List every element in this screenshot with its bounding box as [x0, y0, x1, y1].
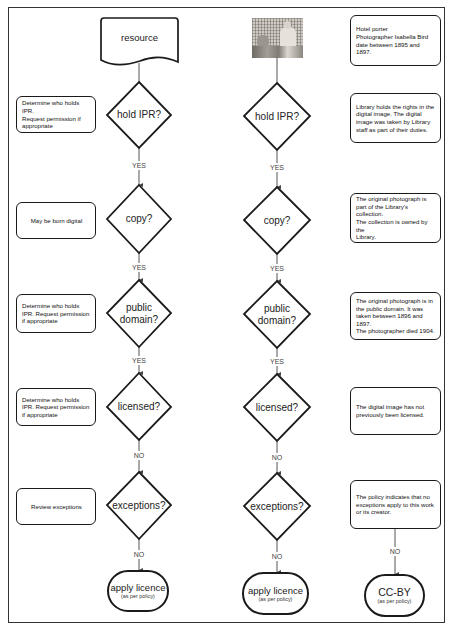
connector-label-no: NO — [384, 547, 406, 556]
decision-label: copy? — [255, 215, 299, 227]
note-not-licensed: The digital image has not previously bee… — [350, 387, 441, 435]
connector-label-yes: YES — [266, 264, 288, 273]
note-text: The original photograph is in the public… — [356, 297, 436, 335]
decision-copy: copy? — [107, 185, 171, 253]
note-text: Determine who holds IPR. Request permiss… — [22, 302, 89, 325]
note-text: Hotel porter Photographer Isabella Bird … — [356, 25, 428, 55]
end-subtitle: (as per policy) — [378, 598, 412, 605]
note-text: The policy indicates that no exceptions … — [356, 493, 434, 516]
end-subtitle: (as per policy) — [259, 596, 293, 603]
note-text: Determine who holds IPR. Request permiss… — [22, 99, 91, 129]
note-original-collection: The original photograph is part of the L… — [350, 193, 441, 243]
end-subtitle: (as per policy) — [121, 593, 155, 600]
decision-label: licensed? — [111, 401, 167, 413]
decision-hold-ipr: hold IPR? — [107, 82, 171, 148]
decision-public-domain-example: public domain? — [244, 281, 310, 348]
note-photo-details: Hotel porter Photographer Isabella Bird … — [350, 15, 441, 66]
connector-label-yes: YES — [266, 163, 288, 172]
note-library-rights: Library holds the rights in the digital … — [350, 93, 441, 143]
connector-label-yes: YES — [128, 263, 150, 272]
note-text: Library holds the rights in the digital … — [356, 103, 434, 133]
decision-hold-ipr-example: hold IPR? — [244, 83, 310, 150]
note-text: Determine who holds IPR. Request permiss… — [22, 396, 89, 419]
note-licensed: Determine who holds IPR. Request permiss… — [16, 388, 96, 426]
note-exceptions: Review exceptions — [16, 488, 96, 525]
decision-public-domain: public domain? — [107, 280, 171, 347]
decision-label: hold IPR? — [117, 109, 161, 121]
note-public-domain: Determine who holds IPR. Request permiss… — [16, 294, 96, 333]
photo-figure-head — [284, 21, 291, 29]
decision-label: exceptions? — [108, 500, 170, 512]
note-copy: May be born digital — [16, 202, 96, 239]
note-policy-exceptions: The policy indicates that no exceptions … — [350, 480, 441, 529]
connector-label-yes: YES — [266, 357, 288, 366]
note-hold-ipr: Determine who holds IPR. Request permiss… — [16, 96, 96, 133]
decision-exceptions-example: exceptions? — [244, 473, 310, 540]
decision-label: exceptions? — [246, 501, 308, 513]
photo-foreground-objects — [252, 46, 303, 58]
note-text: May be born digital — [31, 217, 83, 225]
decision-label: public domain? — [255, 303, 299, 327]
decision-licensed-example: licensed? — [244, 374, 310, 441]
decision-label: copy? — [117, 213, 161, 225]
decision-exceptions: exceptions? — [107, 472, 171, 539]
decision-label: licensed? — [249, 402, 305, 414]
photograph-thumbnail — [252, 18, 303, 58]
note-text: The original photograph is part of the L… — [356, 195, 436, 241]
end-title: CC-BY — [378, 586, 411, 598]
connector-label-yes: YES — [128, 356, 150, 365]
decision-label: hold IPR? — [255, 111, 299, 123]
decision-copy-example: copy? — [244, 187, 310, 254]
connector-label-no: NO — [266, 552, 288, 561]
note-public-domain-status: The original photograph is in the public… — [350, 292, 441, 340]
end-cc-by: CC-BY (as per policy) — [364, 574, 425, 617]
note-text: The digital image has not previously bee… — [356, 403, 424, 418]
end-apply-licence: apply licence (as per policy) — [107, 570, 169, 612]
start-resource-label: resource — [101, 18, 178, 56]
end-apply-licence-example: apply licence (as per policy) — [242, 572, 309, 615]
end-title: apply licence — [248, 585, 303, 596]
end-title: apply licence — [111, 582, 166, 593]
connector-label-yes: YES — [128, 161, 150, 170]
decision-licensed: licensed? — [107, 373, 171, 440]
connector-label-no: NO — [128, 451, 150, 460]
connector-label-no: NO — [266, 453, 288, 462]
note-text: Review exceptions — [31, 503, 82, 511]
connector-label-no: NO — [128, 550, 150, 559]
decision-label: public domain? — [117, 302, 161, 326]
